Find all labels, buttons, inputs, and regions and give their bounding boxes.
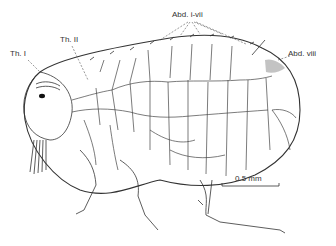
label-thorax-2: Th. II bbox=[60, 35, 78, 44]
scale-bar-label: 0.5 mm bbox=[235, 174, 262, 183]
flea-drawing: Th. I Th. II Abd. i-vii Abd. viii 0.5 mm bbox=[0, 0, 336, 246]
scale-bar: 0.5 mm bbox=[222, 174, 279, 186]
body-outline bbox=[24, 35, 300, 193]
label-leaders bbox=[28, 22, 290, 80]
label-thorax-1: Th. I bbox=[10, 49, 26, 58]
eye bbox=[39, 94, 45, 98]
head bbox=[24, 72, 72, 174]
legs bbox=[76, 150, 285, 233]
label-abdomen-1-7: Abd. i-vii bbox=[172, 10, 203, 19]
label-abdomen-8: Abd. viii bbox=[288, 49, 316, 58]
flea-diagram: Th. I Th. II Abd. i-vii Abd. viii 0.5 mm bbox=[0, 0, 336, 246]
tracheal-network bbox=[72, 44, 296, 176]
